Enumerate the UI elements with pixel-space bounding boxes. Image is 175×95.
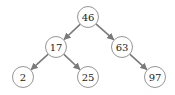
- node-label: 2: [20, 72, 26, 83]
- nodes: 46176322597: [13, 7, 166, 88]
- tree-node-17: 17: [46, 37, 67, 58]
- edge-17-25: [64, 54, 80, 69]
- tree-diagram: 46176322597: [0, 0, 175, 95]
- tree-node-2: 2: [13, 67, 34, 88]
- node-label: 17: [50, 42, 63, 53]
- node-label: 97: [149, 72, 162, 83]
- edge-46-17: [64, 24, 80, 39]
- tree-node-97: 97: [145, 67, 166, 88]
- node-label: 25: [82, 72, 95, 83]
- tree-node-25: 25: [78, 67, 99, 88]
- edge-63-97: [130, 54, 147, 70]
- edge-46-63: [96, 24, 114, 40]
- node-label: 46: [82, 12, 95, 23]
- tree-node-63: 63: [112, 37, 133, 58]
- edge-17-2: [31, 54, 48, 70]
- node-label: 63: [116, 42, 129, 53]
- tree-node-46: 46: [78, 7, 99, 28]
